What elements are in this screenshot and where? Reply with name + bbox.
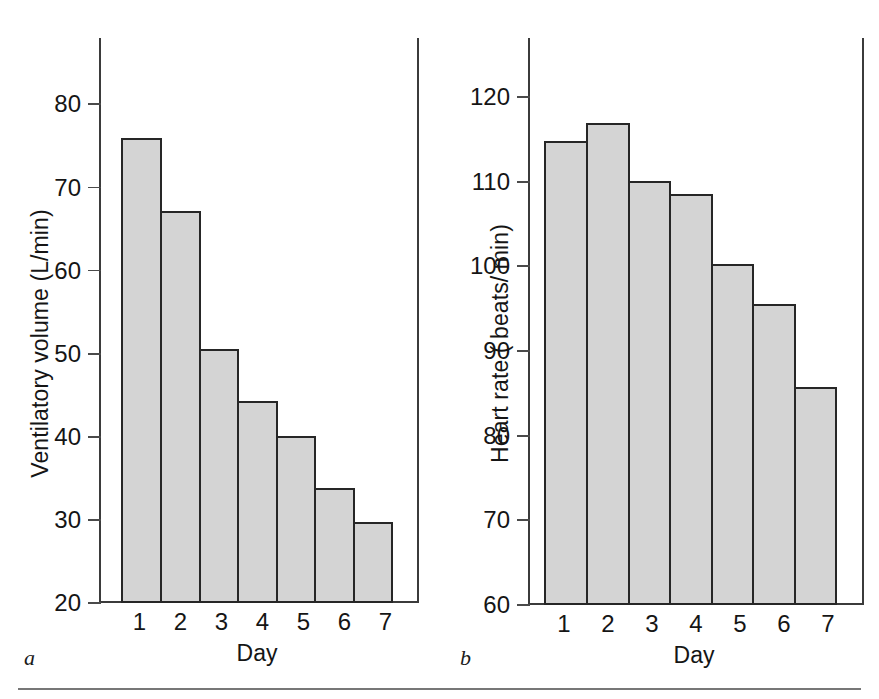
x-axis-title-panel-b: Day — [528, 642, 860, 669]
plot-area-panel-a: 20304050607080 — [99, 38, 419, 603]
panel-a: Ventilatory volume (L/min) 2030405060708… — [0, 0, 440, 699]
y-tick-label-a-40: 40 — [54, 423, 81, 451]
y-axis-title-panel-a: Ventilatory volume (L/min) — [27, 164, 54, 524]
y-tick-a-70: 70 — [88, 187, 101, 189]
y-tick-a-80: 80 — [88, 103, 101, 105]
figure-two-panel-bar-charts: Ventilatory volume (L/min) 2030405060708… — [0, 0, 879, 699]
y-tick-label-a-70: 70 — [54, 174, 81, 202]
bar — [352, 522, 393, 603]
y-tick-label-a-60: 60 — [54, 257, 81, 285]
y-tick-label-a-20: 20 — [54, 589, 81, 617]
x-tick-label: 7 — [365, 608, 406, 636]
bar — [275, 436, 316, 603]
bar — [586, 123, 630, 605]
panel-letter-a: a — [24, 645, 35, 671]
y-tick-a-60: 60 — [88, 270, 101, 272]
y-tick-b-100: 100 — [517, 265, 530, 267]
y-tick-a-50: 50 — [88, 353, 101, 355]
x-tick-label: 3 — [201, 608, 242, 636]
y-tick-b-80: 80 — [517, 435, 530, 437]
x-tick-label: 4 — [242, 608, 283, 636]
panel-letter-b: b — [460, 645, 471, 671]
bar — [627, 181, 671, 605]
x-tick-label: 3 — [630, 610, 674, 638]
y-tick-a-30: 30 — [88, 519, 101, 521]
x-axis-tick-labels-panel-a: 1234567 — [99, 608, 415, 636]
bar-series-panel-a — [101, 38, 417, 603]
x-tick-label: 6 — [324, 608, 365, 636]
y-tick-label-b-80: 80 — [483, 422, 510, 450]
y-tick-a-20: 20 — [88, 602, 101, 604]
y-tick-b-70: 70 — [517, 519, 530, 521]
bar — [314, 488, 355, 603]
bottom-horizontal-rule — [18, 688, 861, 690]
bar — [198, 349, 239, 603]
x-tick-label: 2 — [160, 608, 201, 636]
x-tick-label: 1 — [542, 610, 586, 638]
x-tick-label: 2 — [586, 610, 630, 638]
x-tick-label: 5 — [283, 608, 324, 636]
y-tick-label-b-90: 90 — [483, 337, 510, 365]
y-tick-label-a-80: 80 — [54, 90, 81, 118]
x-tick-label: 4 — [674, 610, 718, 638]
bar — [160, 211, 201, 603]
y-tick-label-b-110: 110 — [472, 168, 510, 196]
y-tick-a-40: 40 — [88, 436, 101, 438]
x-tick-label: 1 — [119, 608, 160, 636]
y-tick-b-60: 60 — [517, 604, 530, 606]
y-tick-label-b-100: 100 — [470, 252, 510, 280]
panel-b: Heart rate ( beats/ min) 607080901001101… — [440, 0, 879, 699]
y-tick-label-b-60: 60 — [483, 591, 510, 619]
x-tick-label: 6 — [762, 610, 806, 638]
y-tick-b-120: 120 — [517, 96, 530, 98]
x-tick-label: 5 — [718, 610, 762, 638]
y-tick-label-a-50: 50 — [54, 340, 81, 368]
y-tick-label-b-70: 70 — [483, 506, 510, 534]
bar — [121, 138, 162, 603]
y-tick-label-a-30: 30 — [54, 506, 81, 534]
x-tick-label: 7 — [806, 610, 850, 638]
bar-series-panel-b — [530, 38, 862, 605]
x-axis-title-panel-a: Day — [99, 640, 415, 667]
y-tick-b-90: 90 — [517, 350, 530, 352]
y-tick-b-110: 110 — [517, 181, 530, 183]
bar — [669, 194, 713, 605]
x-axis-tick-labels-panel-b: 1234567 — [528, 610, 860, 638]
y-tick-label-b-120: 120 — [470, 83, 510, 111]
bar — [793, 387, 837, 605]
plot-area-panel-b: 60708090100110120 — [528, 38, 864, 605]
bar — [544, 141, 588, 605]
bar — [710, 264, 754, 605]
bar — [237, 401, 278, 603]
bar — [752, 304, 796, 605]
